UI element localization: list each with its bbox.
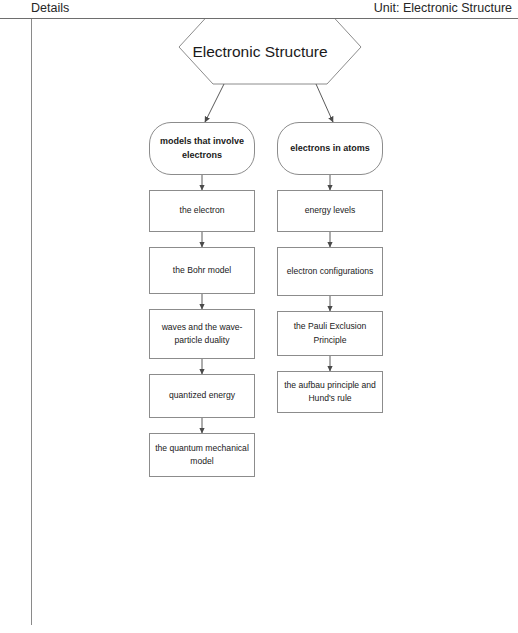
topic-node-waves-and-the-wave-particle-duality[interactable]: waves and the wave-particle duality <box>149 309 255 359</box>
topic-node-the-quantum-mechanical-model[interactable]: the quantum mechanical model <box>149 433 255 477</box>
topic-node-the-pauli-exclusion-principle[interactable]: the Pauli Exclusion Principle <box>277 311 383 356</box>
branch-node-models-that-involve-electrons[interactable]: models that involve electrons <box>149 122 255 175</box>
topic-node-the-electron[interactable]: the electron <box>149 190 255 232</box>
concept-map-canvas: Electronic Structure models that involve… <box>0 0 518 633</box>
topic-node-electron-configurations[interactable]: electron configurations <box>277 247 383 296</box>
connector-edges <box>0 0 518 633</box>
topic-node-energy-levels[interactable]: energy levels <box>277 190 383 232</box>
topic-node-the-aufbau-principle-and-hunds-rule[interactable]: the aufbau principle and Hund's rule <box>277 371 383 413</box>
topic-node-quantized-energy[interactable]: quantized energy <box>149 374 255 418</box>
title-node: Electronic Structure <box>181 20 339 84</box>
branch-node-electrons-in-atoms[interactable]: electrons in atoms <box>277 122 383 175</box>
topic-node-the-bohr-model[interactable]: the Bohr model <box>149 247 255 294</box>
